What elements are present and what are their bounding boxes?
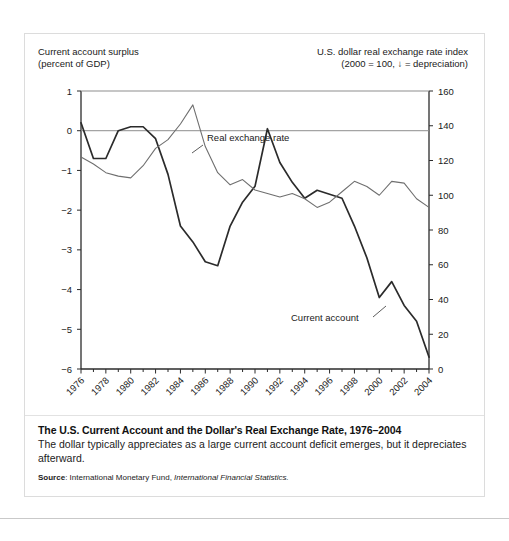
x-axis-tick-label: 1998 <box>337 375 360 398</box>
series-annotation-leader <box>373 306 386 317</box>
x-axis-tick-label: 1988 <box>213 375 236 398</box>
right-axis-tick-label: 20 <box>438 329 449 340</box>
left-axis-tick-label: −6 <box>61 364 72 375</box>
series-line-current-account <box>81 123 429 357</box>
source-label: Source <box>38 473 65 482</box>
x-axis-tick-label: 1976 <box>64 375 87 398</box>
right-axis-tick-label: 140 <box>438 120 454 131</box>
left-axis-tick-label: 1 <box>67 86 72 97</box>
left-axis-tick-label: −3 <box>61 244 72 255</box>
series-annotation-label: Current account <box>291 312 359 323</box>
figure-page: Current account surplus (percent of GDP)… <box>0 0 509 541</box>
right-axis-tick-label: 100 <box>438 190 454 201</box>
figure-box: Current account surplus (percent of GDP)… <box>24 33 485 497</box>
right-axis-tick-label: 80 <box>438 225 449 236</box>
source-publication: International Financial Statistics. <box>174 473 289 482</box>
x-axis-tick-label: 2000 <box>362 375 385 398</box>
left-axis-tick-label: −1 <box>61 165 72 176</box>
caption-body: The dollar typically appreciates as a la… <box>38 438 471 465</box>
series-annotation-leader <box>192 145 203 153</box>
left-axis-tick-label: −5 <box>61 324 72 335</box>
chart-panel: Current account surplus (percent of GDP)… <box>25 34 484 415</box>
right-axis-tick-label: 40 <box>438 294 449 305</box>
left-axis-tick-label: −4 <box>61 284 72 295</box>
right-axis-tick-label: 160 <box>438 86 454 97</box>
caption-title: The U.S. Current Account and the Dollar'… <box>38 424 471 436</box>
chart-plot: 10−1−2−3−4−5−602040608010012014016019761… <box>25 34 484 415</box>
source-line: Source: International Monetary Fund, Int… <box>38 473 471 482</box>
x-axis-tick-label: 1986 <box>188 375 211 398</box>
right-axis-tick-label: 120 <box>438 155 454 166</box>
x-axis-tick-label: 1992 <box>263 375 286 398</box>
x-axis-tick-label: 1978 <box>89 375 112 398</box>
right-axis-tick-label: 60 <box>438 259 449 270</box>
left-axis-tick-label: −2 <box>61 205 72 216</box>
x-axis-tick-label: 1984 <box>163 375 186 398</box>
series-line-real-exchange-rate <box>81 105 429 208</box>
x-axis-tick-label: 1980 <box>113 375 136 398</box>
page-bottom-rule <box>0 518 509 519</box>
series-annotation-label: Real exchange rate <box>207 132 289 143</box>
x-axis-tick-label: 1982 <box>138 375 161 398</box>
left-axis-tick-label: 0 <box>67 125 72 136</box>
source-organization: International Monetary Fund, <box>70 473 175 482</box>
x-axis-tick-label: 2004 <box>412 375 435 398</box>
figure-caption-block: The U.S. Current Account and the Dollar'… <box>25 415 484 496</box>
right-axis-tick-label: 0 <box>438 364 443 375</box>
x-axis-tick-label: 1996 <box>312 375 335 398</box>
x-axis-tick-label: 1990 <box>238 375 261 398</box>
x-axis-tick-label: 2002 <box>387 375 410 398</box>
x-axis-tick-label: 1994 <box>287 375 310 398</box>
